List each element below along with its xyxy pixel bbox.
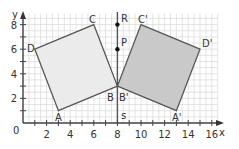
x-tick-label: 2 bbox=[43, 129, 49, 140]
x-tick-label: 8 bbox=[114, 129, 120, 140]
original-square-ABCD bbox=[35, 25, 118, 111]
label-s: s bbox=[121, 110, 126, 121]
x-tick-label: 14 bbox=[182, 129, 195, 140]
y-tick-label: 4 bbox=[11, 69, 17, 80]
x-axis-label: x bbox=[219, 127, 225, 138]
label-D: D bbox=[27, 43, 35, 54]
coordinate-diagram: 246810121416 2468 0 x y R P s A B C D A'… bbox=[0, 0, 239, 149]
label-A: A bbox=[55, 112, 62, 123]
y-tick-labels: 2468 bbox=[11, 20, 17, 105]
label-C: C bbox=[89, 14, 96, 25]
label-A-prime: A' bbox=[172, 112, 182, 123]
label-C-prime: C' bbox=[138, 14, 148, 25]
y-axis-arrow-icon bbox=[20, 11, 26, 19]
x-tick-label: 16 bbox=[205, 129, 218, 140]
x-axis-arrow-icon bbox=[216, 120, 224, 126]
reflected-square-A'B'C'D' bbox=[117, 25, 200, 111]
label-R: R bbox=[121, 13, 128, 24]
x-tick-label: 4 bbox=[67, 129, 73, 140]
point-P bbox=[115, 47, 119, 51]
label-P: P bbox=[121, 37, 127, 48]
point-R bbox=[115, 22, 119, 26]
y-tick-label: 6 bbox=[11, 44, 17, 55]
y-tick-label: 8 bbox=[11, 20, 17, 31]
label-B-prime: B' bbox=[119, 92, 129, 103]
y-tick-label: 2 bbox=[11, 93, 17, 104]
y-axis-label: y bbox=[12, 9, 18, 20]
label-D-prime: D' bbox=[202, 38, 212, 49]
origin-label: 0 bbox=[13, 125, 19, 136]
x-tick-label: 10 bbox=[135, 129, 148, 140]
label-B: B bbox=[107, 92, 114, 103]
x-tick-label: 12 bbox=[158, 129, 171, 140]
x-tick-labels: 246810121416 bbox=[43, 129, 218, 140]
x-tick-label: 6 bbox=[91, 129, 97, 140]
